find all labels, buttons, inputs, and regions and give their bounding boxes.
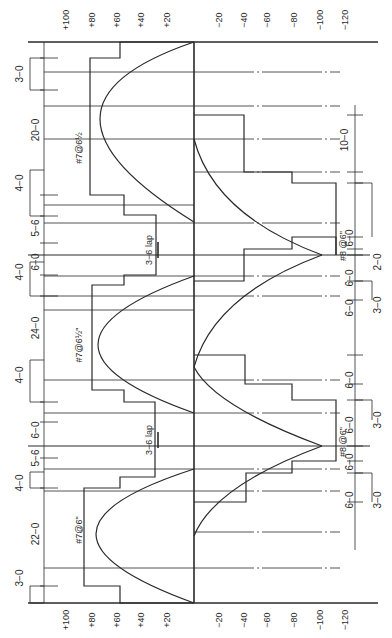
- dimension-label: 24−0: [30, 316, 41, 339]
- axis-tick-label-bottom: +40: [136, 612, 146, 627]
- axis-tick-label-top: +40: [136, 12, 146, 27]
- axis-tick-label-top: −100: [315, 10, 325, 30]
- span-grid-lines: [44, 72, 340, 568]
- dimension-bracket: [355, 400, 372, 420]
- axis-tick-label-top: −20: [214, 12, 224, 27]
- axis-tick-label-bottom: +20: [162, 612, 172, 627]
- dimension-label: 5−6: [30, 219, 41, 236]
- bar-callout-label: #7@6½: [74, 132, 84, 164]
- dimension-label: 4−0: [14, 174, 25, 191]
- dimension-label: 3−0: [14, 569, 25, 586]
- negative-moment-curve: [194, 255, 322, 367]
- negative-bar-cutoff-steps: [194, 446, 336, 502]
- axis-tick-label-bottom: −60: [262, 612, 272, 627]
- dimension-label: 5−6: [30, 449, 41, 466]
- dimension-label: 22−0: [30, 522, 41, 545]
- negative-bar-callout: #8 @6": [338, 427, 348, 457]
- axis-tick-label-bottom: −40: [239, 612, 249, 627]
- dimension-label: 6−0: [344, 491, 355, 508]
- lap-splice-label: 3−6 lap: [144, 425, 154, 455]
- axis-tick-label-bottom: −100: [315, 610, 325, 630]
- axis-tick-label-bottom: +100: [61, 610, 71, 630]
- lap-splice-label: 3−6 lap: [144, 235, 154, 265]
- positive-moment-curve: [98, 276, 194, 413]
- dimension-bracket: [355, 183, 372, 237]
- dimension-bracket: [30, 586, 44, 603]
- dimension-bracket: [30, 58, 44, 90]
- dimension-label: 6−0: [344, 371, 355, 388]
- dimension-label: 4−0: [14, 263, 25, 280]
- moment-envelope-drawing: +100+100+80+80+60+60+40+40+20+20−20−20−4…: [0, 0, 392, 638]
- positive-bar-cutoff-steps: [84, 465, 194, 603]
- negative-bar-cutoff-steps: [194, 237, 336, 281]
- beam-reinforcement-diagram: +100+100+80+80+60+60+40+40+20+20−20−20−4…: [0, 0, 392, 638]
- dimension-bracket: [30, 472, 44, 488]
- axis-tick-label-top: +20: [162, 12, 172, 27]
- dimension-bracket: [30, 170, 44, 216]
- moment-curves: [96, 42, 322, 603]
- dimension-bracket: [355, 473, 372, 502]
- dimension-bracket: [355, 281, 372, 300]
- axis-tick-label-top: +60: [112, 12, 122, 27]
- dimension-label: 3−0: [14, 65, 25, 82]
- dimension-label: 20−0: [30, 118, 41, 141]
- dimension-label: 4−0: [14, 366, 25, 383]
- axis-tick-label-bottom: −120: [340, 610, 350, 630]
- axis-tick-label-bottom: −80: [289, 612, 299, 627]
- dimension-bracket: [30, 360, 44, 402]
- axis-tick-label-top: −40: [239, 12, 249, 27]
- dimension-label: 6−0: [30, 421, 41, 438]
- dimension-label: 3−0: [372, 491, 383, 508]
- negative-bar-cutoff-steps: [194, 355, 336, 446]
- dimension-label: 3−0: [372, 296, 383, 313]
- diagram-labels: +100+100+80+80+60+60+40+40+20+20−20−20−4…: [14, 10, 383, 630]
- axis-tick-label-top: −120: [340, 10, 350, 30]
- axis-tick-label-top: +100: [61, 10, 71, 30]
- dimension-label: 2−0: [372, 253, 383, 270]
- axis-tick-label-bottom: +80: [87, 612, 97, 627]
- dimension-label: 6−0: [30, 253, 41, 270]
- bar-callout-label: #7@6½": [74, 328, 84, 363]
- dimension-label: 6−0: [344, 269, 355, 286]
- dimension-label: 4−0: [14, 474, 25, 491]
- dimension-label: 6−0: [344, 299, 355, 316]
- axis-tick-label-top: −80: [289, 12, 299, 27]
- negative-bar-callout: #8 @6": [338, 231, 348, 261]
- negative-moment-curve: [194, 367, 322, 446]
- bar-callout-label: #7@6": [74, 516, 84, 543]
- negative-bar-cutoff-steps: [194, 115, 336, 255]
- dimension-label: 10−0: [339, 128, 350, 151]
- axis-tick-label-top: −60: [262, 12, 272, 27]
- dimension-label: 3−0: [372, 411, 383, 428]
- axis-tick-label-bottom: +60: [112, 612, 122, 627]
- axis-tick-label-bottom: −20: [214, 612, 224, 627]
- axis-tick-label-top: +80: [87, 12, 97, 27]
- reinforcement-step-lines: [84, 42, 336, 603]
- positive-moment-curve: [96, 469, 194, 603]
